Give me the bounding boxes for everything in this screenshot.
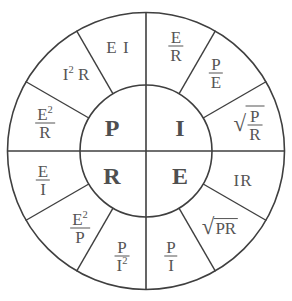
segment-divider-120deg bbox=[203, 184, 266, 221]
segment-divider-150deg bbox=[179, 208, 216, 271]
segment-divider-240deg bbox=[26, 184, 89, 221]
ohms-law-wheel bbox=[0, 0, 292, 301]
segment-divider-300deg bbox=[26, 82, 89, 119]
segment-divider-210deg bbox=[77, 208, 114, 271]
segment-divider-60deg bbox=[203, 82, 266, 119]
segment-divider-330deg bbox=[77, 31, 114, 94]
segment-divider-30deg bbox=[179, 31, 216, 94]
